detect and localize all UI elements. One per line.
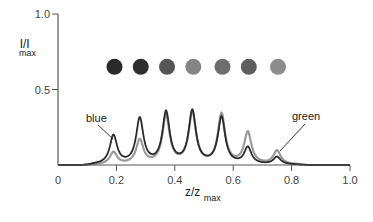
chart: 0.51.0 00.20.40.60.81.0 I/I max z/z max … bbox=[0, 0, 373, 222]
x-tick-label: 1.0 bbox=[342, 174, 357, 186]
annotation-green: green bbox=[292, 110, 320, 122]
x-axis-label-main: z/z bbox=[185, 185, 200, 199]
x-tick-label: 0.2 bbox=[109, 174, 124, 186]
x-tick-label: 0.6 bbox=[226, 174, 241, 186]
dots-row bbox=[106, 59, 286, 75]
x-axis-label-sub: max bbox=[204, 193, 222, 203]
color-dot bbox=[185, 59, 201, 75]
y-tick-label: 1.0 bbox=[35, 8, 50, 20]
color-dot bbox=[159, 59, 175, 75]
y-ticks: 0.51.0 bbox=[35, 8, 58, 96]
color-dot bbox=[215, 59, 231, 75]
x-tick-label: 0 bbox=[55, 174, 61, 186]
x-tick-label: 0.4 bbox=[167, 174, 182, 186]
annotation-blue: blue bbox=[86, 112, 107, 124]
x-axis-label: z/z max bbox=[185, 185, 221, 203]
y-tick-label: 0.5 bbox=[35, 84, 50, 96]
y-axis-label-sub: max bbox=[19, 48, 37, 58]
x-tick-label: 0.8 bbox=[284, 174, 299, 186]
annotation-blue-leader bbox=[98, 125, 113, 139]
color-dot bbox=[241, 59, 257, 75]
annotation-green-leader bbox=[280, 124, 305, 151]
color-dot bbox=[106, 59, 122, 75]
color-dot bbox=[133, 59, 149, 75]
y-axis-label: I/I max bbox=[19, 37, 37, 58]
color-dot bbox=[270, 59, 286, 75]
x-ticks: 00.20.40.60.81.0 bbox=[55, 165, 358, 186]
